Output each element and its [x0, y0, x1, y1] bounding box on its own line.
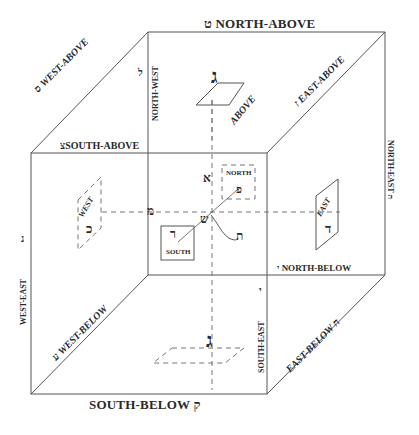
south-above-text: SOUTH-ABOVE — [65, 140, 139, 151]
south-face-letter: ר — [170, 228, 176, 240]
north-west-letter: ל — [138, 68, 143, 78]
north-east-text: NORTH-EAST — [386, 140, 395, 192]
north-below-letter: י — [277, 263, 279, 273]
south-face-text: SOUTH — [166, 249, 191, 256]
north-above-label: ט NORTH-ABOVE — [204, 17, 316, 30]
center-pointer — [211, 215, 236, 240]
west-east-text: WEST-EAST — [20, 279, 28, 325]
south-below-text: SOUTH-BELOW — [89, 397, 190, 412]
cube-diagram: ט NORTH-ABOVE צSOUTH-ABOVE ס WEST-ABOVE … — [0, 0, 419, 435]
center-letter: ת — [236, 230, 243, 242]
vertical-axis-letter: א — [203, 172, 211, 184]
depth-axis-letter: ש — [200, 213, 209, 225]
south-below-letter: ק — [193, 397, 200, 412]
west-below-edge — [31, 275, 148, 394]
south-east-letter: י — [259, 286, 262, 296]
north-west-text: NORTH-WEST — [152, 66, 160, 121]
north-below-label: י NORTH-BELOW — [277, 264, 351, 273]
east-face-letter: ד — [325, 222, 331, 235]
south-below-label: SOUTH-BELOW ק — [89, 398, 201, 411]
west-east-letter: נ — [21, 234, 24, 244]
below-face-letter: ג — [206, 330, 213, 350]
south-east-text: SOUTH-EAST — [258, 321, 266, 373]
south-above-label: צSOUTH-ABOVE — [60, 141, 139, 151]
east-above-edge — [267, 32, 385, 153]
above-face-frame — [196, 83, 244, 105]
north-face-letter: פ — [236, 184, 242, 195]
north-east-label: NORTH-EAST ה — [386, 140, 395, 199]
north-east-letter: ה — [386, 194, 396, 199]
north-face-text: NORTH — [226, 170, 251, 177]
above-face-letter: ג — [211, 66, 218, 86]
north-below-text: NORTH-BELOW — [282, 263, 352, 273]
north-above-text: NORTH-ABOVE — [216, 16, 316, 31]
west-face-letter: כ — [86, 222, 92, 235]
below-face-frame — [153, 348, 244, 363]
horizontal-axis-letter: מ — [147, 205, 154, 217]
north-above-letter: ט — [204, 16, 212, 31]
west-above-edge — [31, 32, 148, 153]
